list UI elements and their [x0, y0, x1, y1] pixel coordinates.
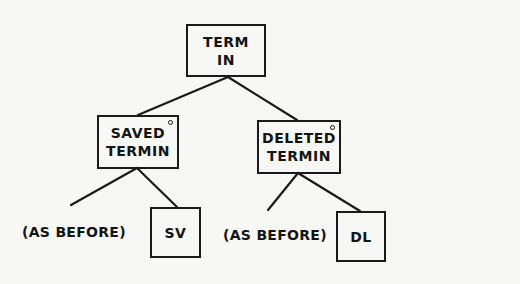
leaf-saved-as-before: (AS BEFORE) — [22, 224, 126, 240]
node-label-line: TERMIN — [267, 147, 331, 165]
edge-deleted-to-dl — [298, 173, 360, 211]
node-label-line: SAVED — [111, 124, 166, 142]
leaf-deleted-as-before: (AS BEFORE) — [223, 227, 327, 243]
node-term-in: TERM IN — [186, 24, 266, 77]
corner-marker-icon — [168, 120, 173, 125]
node-label-line: DL — [350, 228, 372, 246]
edge-term-in-to-saved — [138, 77, 228, 115]
node-label-line: DELETED — [262, 129, 336, 147]
node-label-line: IN — [217, 51, 235, 69]
node-label-line: SV — [165, 224, 187, 242]
edge-saved-to-as-before — [71, 168, 137, 205]
edge-term-in-to-deleted — [228, 77, 297, 120]
node-deleted-termin: DELETED TERMIN — [257, 120, 341, 174]
node-saved-termin: SAVED TERMIN — [97, 115, 179, 169]
edge-saved-to-sv — [137, 168, 177, 207]
edge-deleted-to-as-before — [268, 173, 298, 210]
node-sv: SV — [150, 207, 201, 258]
node-dl: DL — [336, 211, 386, 262]
tree-diagram: TERM IN SAVED TERMIN DELETED TERMIN (AS … — [0, 0, 520, 284]
node-label-line: TERM — [203, 33, 249, 51]
corner-marker-icon — [330, 125, 335, 130]
node-label-line: TERMIN — [106, 142, 170, 160]
